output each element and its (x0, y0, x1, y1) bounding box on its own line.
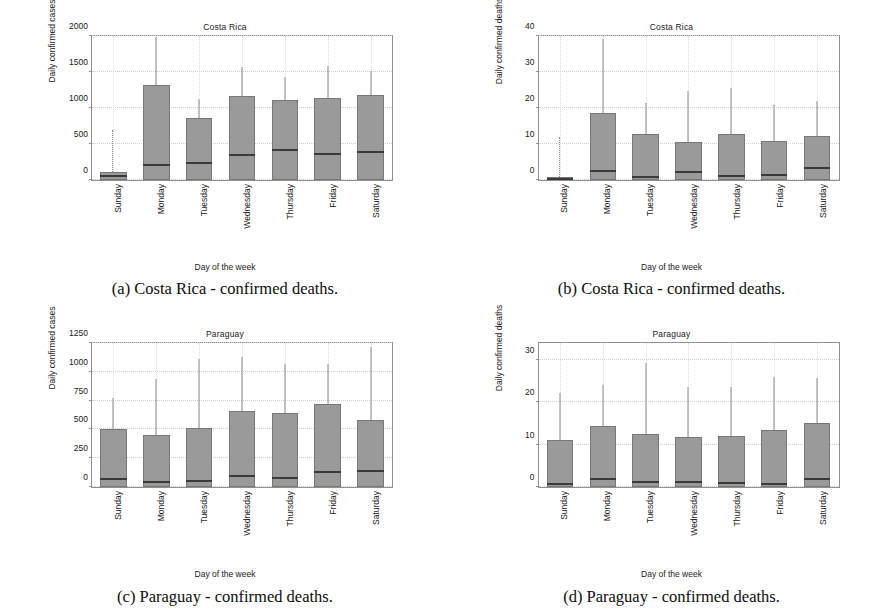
y-tick-label: 1500 (69, 57, 88, 67)
box-plot-thursday (272, 343, 299, 487)
median-line (547, 483, 574, 485)
median-line (229, 154, 256, 156)
y-axis-label: Daily confirmed deaths (494, 0, 504, 96)
plot-d: ParaguayDaily confirmed deaths0102030Sun… (492, 329, 852, 579)
x-axis-label: Day of the week (45, 262, 405, 272)
y-tick-mark (536, 444, 539, 445)
box-plot-saturday (357, 36, 384, 180)
y-tick-mark (89, 371, 92, 372)
box (186, 118, 213, 180)
y-tick-mark (536, 401, 539, 402)
subfigure-caption: (a) Costa Rica - confirmed deaths. (0, 279, 450, 299)
median-line (143, 481, 170, 483)
x-tick-label: Sunday (113, 491, 123, 520)
chart-title: Costa Rica (492, 22, 852, 32)
whisker-upper (284, 77, 285, 100)
whisker-upper (327, 364, 328, 404)
median-line (186, 480, 213, 482)
box (357, 420, 384, 487)
whisker-upper (817, 101, 818, 137)
subfigure-a: Costa RicaDaily confirmed cases050010001… (0, 0, 450, 307)
subfigure-caption: (b) Costa Rica - confirmed deaths. (450, 279, 893, 299)
median-line (272, 149, 299, 151)
whisker-upper (559, 393, 560, 440)
x-tick-label: Saturday (371, 491, 381, 525)
y-tick-label: 40 (525, 21, 534, 31)
x-tick-label: Tuesday (645, 184, 655, 216)
whisker-upper (731, 88, 732, 134)
median-line (804, 167, 831, 169)
x-tick-label: Sunday (559, 491, 569, 520)
box-plot-tuesday (186, 36, 213, 180)
box (547, 440, 574, 487)
subfigure-c: ParaguayDaily confirmed cases02505007501… (0, 307, 450, 615)
box (186, 428, 213, 487)
box-plot-saturday (804, 36, 831, 180)
y-axis-label: Daily confirmed cases (47, 0, 57, 96)
whisker-upper (113, 398, 114, 429)
median-line (314, 471, 341, 473)
x-tick-label: Friday (328, 491, 338, 515)
box-plot-monday (590, 343, 617, 487)
y-tick-mark (89, 342, 92, 343)
y-tick-label: 1000 (69, 357, 88, 367)
box (357, 95, 384, 180)
plot-area: 025050075010001250 (91, 342, 393, 488)
whisker-upper (688, 91, 689, 141)
x-tick-band: SundayMondayTuesdayWednesdayThursdayFrid… (91, 182, 393, 252)
box-plot-saturday (804, 343, 831, 487)
whisker-upper (327, 66, 328, 98)
median-line (675, 171, 702, 173)
whisker-upper (156, 37, 157, 85)
median-line (804, 478, 831, 480)
y-tick-label: 1000 (69, 93, 88, 103)
y-tick-label: 750 (74, 386, 88, 396)
x-tick-label: Friday (775, 491, 785, 515)
x-tick-label: Thursday (285, 491, 295, 526)
y-tick-mark (89, 35, 92, 36)
box-plot-friday (314, 36, 341, 180)
box-plot-monday (143, 343, 170, 487)
y-tick-label: 500 (74, 414, 88, 424)
x-tick-label: Monday (156, 491, 166, 521)
plot-area: 010203040 (538, 35, 840, 181)
box (675, 142, 702, 180)
y-tick-mark (89, 107, 92, 108)
box-plot-thursday (272, 36, 299, 180)
median-line (761, 483, 788, 485)
median-line (590, 170, 617, 172)
median-line (675, 481, 702, 483)
median-line (632, 481, 659, 483)
y-tick-mark (89, 400, 92, 401)
y-tick-mark (536, 107, 539, 108)
box-plot-wednesday (229, 343, 256, 487)
x-tick-band: SundayMondayTuesdayWednesdayThursdayFrid… (91, 489, 393, 559)
median-line (547, 178, 574, 180)
x-tick-band: SundayMondayTuesdayWednesdayThursdayFrid… (538, 182, 840, 252)
figure-grid: Costa RicaDaily confirmed cases050010001… (0, 0, 893, 615)
box (761, 430, 788, 487)
x-tick-label: Thursday (732, 184, 742, 219)
y-tick-label: 2000 (69, 21, 88, 31)
y-tick-label: 30 (525, 57, 534, 67)
y-tick-mark (536, 71, 539, 72)
box (718, 436, 745, 487)
figure-page: Costa RicaDaily confirmed cases050010001… (0, 0, 893, 615)
median-line (761, 174, 788, 176)
subfigure-caption: (c) Paraguay - confirmed deaths. (0, 587, 450, 607)
y-axis-label: Daily confirmed cases (47, 293, 57, 403)
whisker-upper (645, 363, 646, 434)
whisker-upper (817, 378, 818, 424)
y-tick-mark (89, 71, 92, 72)
y-tick-label: 0 (83, 165, 88, 175)
whisker-upper (774, 377, 775, 430)
y-tick-mark (89, 143, 92, 144)
plot-area: 0102030 (538, 342, 840, 488)
box-plot-friday (314, 343, 341, 487)
box-plot-sunday (100, 343, 127, 487)
whisker-upper (156, 379, 157, 435)
box-plot-wednesday (675, 343, 702, 487)
box-plot-sunday (547, 343, 574, 487)
box-plot-wednesday (229, 36, 256, 180)
median-line (718, 175, 745, 177)
